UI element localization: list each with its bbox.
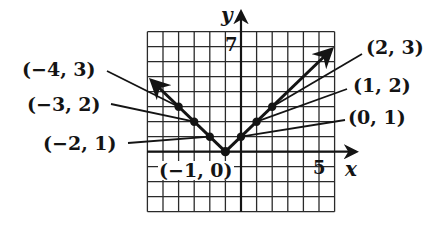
point-0-1 (237, 133, 245, 141)
point-1-2 (252, 118, 260, 126)
leader-line-p3 (128, 137, 210, 143)
leader-lines (107, 54, 362, 143)
point-neg3-2 (190, 118, 198, 126)
point-label-neg3-2: (−3, 2) (27, 95, 101, 114)
point-neg1-0 (221, 147, 230, 156)
point-label-2-3: (2, 3) (366, 38, 424, 57)
point-neg4-3 (174, 103, 182, 111)
point-label-neg1-0: (−1, 0) (158, 161, 234, 180)
x-axis-label: x (345, 159, 357, 179)
point-label-0-1: (0, 1) (348, 108, 406, 127)
x-tick-label-5: 5 (313, 159, 326, 177)
point-neg2-1 (206, 133, 214, 141)
y-tick-label-7: 7 (225, 36, 238, 54)
point-label-1-2: (1, 2) (353, 76, 411, 95)
point-2-3 (268, 103, 276, 111)
point-label-neg2-1: (−2, 1) (43, 134, 117, 153)
y-axis-label: y (221, 5, 233, 25)
point-label-neg4-3: (−4, 3) (22, 60, 96, 79)
